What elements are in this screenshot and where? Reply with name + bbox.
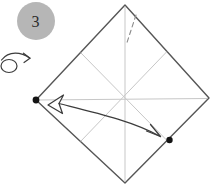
paper-shape xyxy=(36,5,209,183)
step-number: 3 xyxy=(32,13,40,30)
origami-step-diagram: 3 xyxy=(0,0,216,194)
paper-outline xyxy=(36,5,209,183)
turn-over-arrowhead-icon xyxy=(24,53,31,62)
step-badge: 3 xyxy=(17,2,55,40)
turn-over-icon xyxy=(1,53,30,72)
landmark-dot-left xyxy=(33,97,40,104)
turn-over-loop xyxy=(1,60,17,73)
landmark-dot-right xyxy=(166,137,172,143)
